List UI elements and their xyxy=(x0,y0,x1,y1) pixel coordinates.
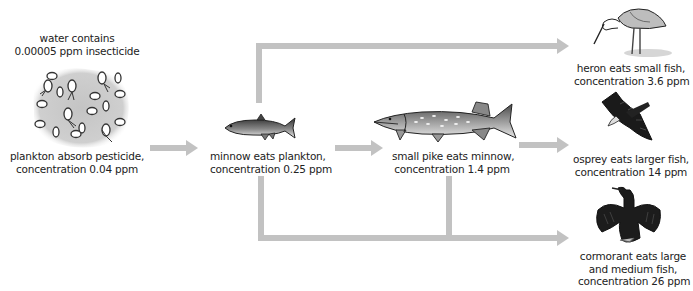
pike-icon xyxy=(372,100,524,144)
cormorant-label-line2: and medium fish, xyxy=(578,263,688,276)
plankton-label-line2: concentration 0.04 ppm xyxy=(8,163,146,176)
cormorant-label: cormorant eats large and medium fish, co… xyxy=(578,250,688,288)
minnow-icon xyxy=(223,114,297,142)
cormorant-icon xyxy=(594,184,664,248)
minnow-label: minnow eats plankton, concentration 0.25… xyxy=(210,150,318,175)
plankton-icon xyxy=(30,66,130,148)
pike-label-line2: concentration 1.4 ppm xyxy=(392,163,512,176)
cormorant-label-line1: cormorant eats large xyxy=(578,250,688,263)
plankton-label-line1: plankton absorb pesticide, xyxy=(8,150,146,163)
pike-label: small pike eats minnow, concentration 1.… xyxy=(392,150,512,175)
heron-label: heron eats small fish, concentration 3.6… xyxy=(574,62,688,87)
osprey-label: osprey eats larger fish, concentration 1… xyxy=(572,153,690,178)
heron-label-line2: concentration 3.6 ppm xyxy=(574,75,688,88)
osprey-label-line2: concentration 14 ppm xyxy=(572,166,690,179)
osprey-icon xyxy=(596,90,656,146)
osprey-label-line1: osprey eats larger fish, xyxy=(572,153,690,166)
minnow-label-line2: concentration 0.25 ppm xyxy=(210,163,318,176)
heron-icon xyxy=(590,2,670,58)
water-note-line2: 0.00005 ppm insecticide xyxy=(12,45,142,58)
pike-label-line1: small pike eats minnow, xyxy=(392,150,512,163)
heron-label-line1: heron eats small fish, xyxy=(574,62,688,75)
cormorant-label-line3: concentration 26 ppm xyxy=(578,275,688,288)
minnow-label-line1: minnow eats plankton, xyxy=(210,150,318,163)
plankton-label: plankton absorb pesticide, concentration… xyxy=(8,150,146,175)
water-note-line1: water contains xyxy=(12,32,142,45)
water-note: water contains 0.00005 ppm insecticide xyxy=(12,32,142,57)
